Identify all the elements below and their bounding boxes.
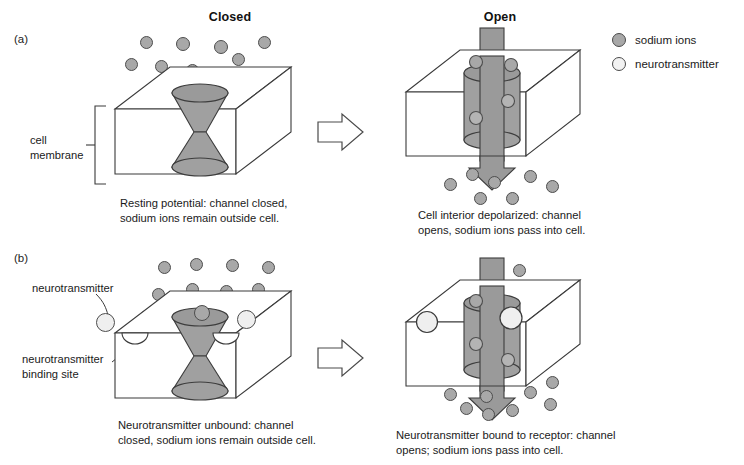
caption-a-closed-line2: sodium ions remain outside cell.: [120, 211, 350, 226]
legend-label-sodium-ions: sodium ions: [635, 33, 696, 47]
sodium-ion: [140, 36, 153, 49]
caption-a-closed-line1: Resting potential: channel closed,: [120, 196, 350, 211]
sodium-ion: [546, 180, 559, 193]
panel-letter-a: (a): [14, 33, 28, 45]
sodium-ion: [506, 192, 519, 205]
caption-a-open: Cell interior depolarized: channel opens…: [418, 208, 668, 237]
sodium-ion: [524, 386, 537, 399]
sodium-channel-diagram: Closed Open sodium ions neurotransmitter…: [0, 0, 744, 465]
sodium-ion: [444, 178, 457, 191]
sodium-ion: [506, 404, 519, 417]
transition-arrow-a: [316, 112, 366, 154]
panel-letter-b: (b): [14, 252, 28, 264]
neurotransmitter-circle-icon: [612, 57, 626, 71]
sodium-ion-circle-icon: [612, 33, 626, 47]
sodium-ion: [544, 398, 557, 411]
column-header-open: Open: [420, 10, 580, 24]
sodium-ion: [190, 258, 203, 271]
caption-b-open: Neurotransmitter bound to receptor: chan…: [396, 428, 686, 457]
sodium-ion: [158, 261, 171, 274]
sodium-ion: [444, 388, 457, 401]
sodium-ion: [214, 40, 228, 54]
caption-b-closed-line1: Neurotransmitter unbound: channel: [118, 418, 368, 433]
sodium-ion: [460, 402, 473, 415]
closed-channel-membrane-a: [100, 62, 300, 192]
sodium-ion: [482, 408, 495, 421]
sodium-ion: [488, 176, 501, 189]
open-channel-membrane-a: [392, 28, 607, 203]
sodium-ion: [466, 168, 479, 181]
sodium-ion: [480, 390, 493, 403]
sodium-ion: [474, 192, 487, 205]
sodium-ion: [546, 376, 559, 389]
sodium-ion: [262, 261, 275, 274]
sodium-ion: [176, 37, 190, 51]
cell-membrane-label: cell membrane: [30, 133, 96, 162]
legend-item-sodium-ions: sodium ions: [612, 33, 696, 47]
caption-b-closed-line2: closed, sodium ions remain outside cell.: [118, 433, 368, 448]
caption-a-open-line1: Cell interior depolarized: channel: [418, 208, 668, 223]
caption-b-open-line1: Neurotransmitter bound to receptor: chan…: [396, 428, 686, 443]
sodium-ion: [194, 305, 210, 321]
column-header-closed: Closed: [150, 10, 310, 24]
neurotransmitter: [237, 310, 256, 329]
caption-b-open-line2: opens; sodium ions pass into cell.: [396, 443, 686, 458]
caption-b-closed: Neurotransmitter unbound: channel closed…: [118, 418, 368, 447]
legend-label-neurotransmitter: neurotransmitter: [635, 57, 719, 71]
top-cropped-text: [30, 0, 710, 6]
cell-membrane-label-line2: membrane: [30, 148, 96, 163]
open-channel-membrane-b: [392, 258, 607, 433]
sodium-ion: [258, 36, 271, 49]
transition-arrow-b: [316, 338, 366, 380]
caption-a-open-line2: opens, sodium ions pass into cell.: [418, 223, 668, 238]
legend-item-neurotransmitter: neurotransmitter: [612, 57, 719, 71]
sodium-ion: [524, 170, 537, 183]
sodium-ion: [226, 259, 239, 272]
caption-a-closed: Resting potential: channel closed, sodiu…: [120, 196, 350, 225]
